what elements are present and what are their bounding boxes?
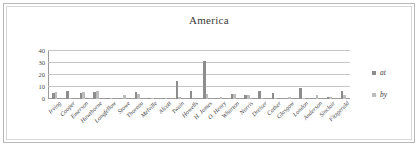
chart-title: America	[4, 14, 414, 26]
bar-group	[199, 51, 213, 99]
legend-label: at	[380, 68, 386, 77]
bar-by	[82, 92, 85, 99]
bar-group	[309, 51, 323, 99]
bar-group	[185, 51, 199, 99]
legend-label: by	[380, 90, 387, 99]
bar-group	[295, 51, 309, 99]
bar-group	[323, 51, 337, 99]
bar-group	[62, 51, 76, 99]
y-axis-tick-labels: 010203040	[28, 51, 45, 99]
bar-group	[48, 51, 62, 99]
bar-group	[281, 51, 295, 99]
bar-group	[213, 51, 227, 99]
y-tick-label-40: 40	[39, 48, 46, 55]
chart-legend: atby	[372, 68, 414, 112]
plot-area	[48, 51, 350, 99]
y-tick-label-0: 0	[42, 96, 45, 103]
bar-group	[144, 51, 158, 99]
bar-by	[96, 91, 99, 99]
bar-by	[55, 92, 58, 99]
bar-group	[130, 51, 144, 99]
y-tick-label-20: 20	[39, 72, 46, 79]
bar-group	[172, 51, 186, 99]
legend-item[interactable]: by	[372, 90, 414, 99]
bar-group	[240, 51, 254, 99]
legend-item[interactable]: at	[372, 68, 414, 77]
y-tick-label-10: 10	[39, 84, 46, 91]
bar-group	[268, 51, 282, 99]
bar-group	[117, 51, 131, 99]
bar-group	[158, 51, 172, 99]
legend-swatch-icon	[372, 93, 376, 97]
bar-group	[89, 51, 103, 99]
bar-series-group	[48, 51, 350, 99]
y-tick-label-30: 30	[39, 60, 46, 67]
x-axis-tick-labels: IrvingCooperEmersonHawthorneLongfellowSt…	[48, 100, 350, 146]
bar-group	[103, 51, 117, 99]
bar-at	[190, 91, 193, 99]
legend-swatch-icon	[372, 71, 376, 75]
bar-group	[226, 51, 240, 99]
bar-group	[336, 51, 350, 99]
chart-container: America 010203040 IrvingCooperEmersonHaw…	[3, 3, 415, 143]
x-tick-label: Alcott	[157, 100, 172, 115]
bar-group	[75, 51, 89, 99]
bar-group	[254, 51, 268, 99]
